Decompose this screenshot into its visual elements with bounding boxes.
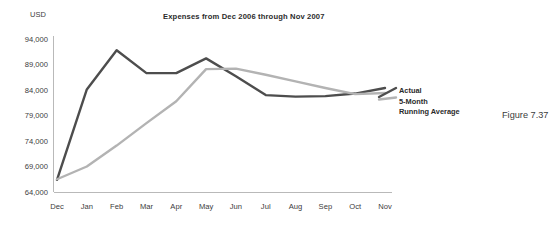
y-axis-unit-label: USD [30, 10, 46, 19]
figure-container: USD Expenses from Dec 2006 through Nov 2… [0, 0, 559, 237]
y-tick-label: 79,000 [25, 111, 48, 120]
y-tick-label: 74,000 [25, 137, 48, 146]
x-tick-label: Sep [319, 202, 333, 211]
legend-label-actual: Actual [399, 86, 422, 95]
expenses-line-chart: USD Expenses from Dec 2006 through Nov 2… [0, 0, 559, 237]
x-tick-label: Feb [110, 202, 123, 211]
figure-caption: Figure 7.37 [502, 110, 548, 120]
x-tick-label: Jul [261, 202, 271, 211]
y-tick-label: 89,000 [25, 60, 48, 69]
x-tick-label: Dec [50, 202, 64, 211]
x-tick-label: Jun [230, 202, 242, 211]
legend-label-running-average-line2: Running Average [399, 107, 460, 116]
x-axis-tick-labels: DecJanFebMarAprMayJunJulAugSepOctNov [50, 202, 392, 211]
series-line-running-average [57, 69, 385, 180]
y-tick-label: 84,000 [25, 86, 48, 95]
x-tick-label: May [199, 202, 214, 211]
x-tick-label: Mar [140, 202, 154, 211]
chart-title: Expenses from Dec 2006 through Nov 2007 [163, 12, 325, 21]
x-tick-label: Aug [289, 202, 303, 211]
x-tick-label: Oct [349, 202, 362, 211]
x-tick-label: Nov [378, 202, 392, 211]
x-tick-label: Jan [81, 202, 93, 211]
legend-label-running-average-line1: 5-Month [399, 97, 428, 106]
x-tick-label: Apr [170, 202, 182, 211]
legend-swatch-running-average [379, 98, 396, 100]
y-tick-label: 69,000 [25, 162, 48, 171]
y-axis-tick-labels: 94,000 89,000 84,000 79,000 74,000 69,00… [25, 35, 48, 197]
y-tick-label: 94,000 [25, 35, 48, 44]
y-tick-label: 64,000 [25, 188, 48, 197]
